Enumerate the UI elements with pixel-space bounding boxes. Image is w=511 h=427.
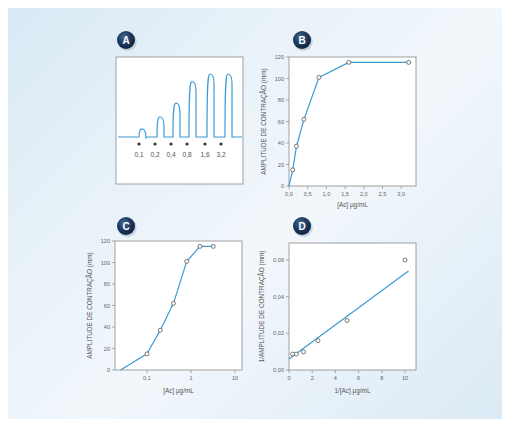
- x-tick-label: 0,1: [143, 375, 151, 381]
- y-tick-label: 0: [107, 367, 110, 373]
- y-axis-label: 1/AMPLITUDE DE CONTRAÇÃO (mm): [257, 251, 266, 363]
- y-axis-label: AMPLITUDE DE CONTRAÇÃO (mm): [85, 252, 94, 359]
- dose-label: 1,6: [200, 151, 209, 158]
- x-tick-label: 10: [402, 375, 408, 381]
- badge-b: B: [293, 31, 313, 51]
- dose-label: 0,4: [166, 151, 175, 158]
- data-point: [158, 328, 162, 332]
- x-axis-label: [Ac] µg/mL: [163, 387, 194, 395]
- y-tick-label: 120: [275, 54, 284, 60]
- badge-d: D: [293, 217, 313, 237]
- x-axis-label: [Ac] µg/mL: [337, 201, 368, 209]
- x-tick-label: 1,5: [341, 191, 349, 197]
- y-tick-label: 80: [104, 281, 110, 287]
- data-point: [145, 352, 149, 356]
- badge-a: A: [117, 31, 137, 51]
- x-tick-label: 0: [287, 375, 290, 381]
- dose-label: 0,8: [182, 151, 191, 158]
- plot-frame: [289, 243, 416, 370]
- y-tick-label: 0: [281, 183, 284, 189]
- x-tick-label: 0,5: [304, 191, 312, 197]
- data-point: [347, 60, 351, 64]
- badge-letter: B: [298, 35, 305, 46]
- data-point: [211, 244, 215, 248]
- dose-marker-dot: [169, 142, 172, 145]
- badge-c: C: [117, 217, 137, 237]
- y-tick-label: 0,06: [273, 257, 284, 263]
- y-tick-label: 0,00: [273, 367, 284, 373]
- data-point: [302, 117, 306, 121]
- y-tick-label: 100: [275, 76, 284, 82]
- data-point: [294, 352, 298, 356]
- data-point: [345, 319, 349, 323]
- x-tick-label: 1: [189, 375, 192, 381]
- data-point: [185, 259, 189, 263]
- x-tick-label: 2: [311, 375, 314, 381]
- y-tick-label: 20: [104, 346, 110, 352]
- badge-letter: D: [298, 221, 305, 232]
- x-tick-label: 8: [380, 375, 383, 381]
- data-point: [302, 350, 306, 354]
- x-tick-label: 3,0: [397, 191, 405, 197]
- data-point: [317, 75, 321, 79]
- dose-marker-dot: [153, 142, 156, 145]
- x-tick-label: 2,5: [379, 191, 387, 197]
- data-point: [198, 244, 202, 248]
- panel-c-chart: 0204060801001200,1110AMPLITUDE DE CONTRA…: [85, 238, 242, 395]
- x-tick-label: 2,0: [360, 191, 368, 197]
- y-tick-label: 20: [278, 162, 284, 168]
- data-point: [294, 144, 298, 148]
- dose-marker-dot: [203, 142, 206, 145]
- dose-marker-dot: [219, 142, 222, 145]
- x-tick-label: 1,0: [323, 191, 331, 197]
- dose-label: 0,2: [150, 151, 159, 158]
- y-tick-label: 120: [101, 238, 110, 244]
- x-tick-label: 0,0: [285, 191, 293, 197]
- data-point: [407, 60, 411, 64]
- data-point: [316, 339, 320, 343]
- x-tick-label: 6: [357, 375, 360, 381]
- dose-marker-dot: [137, 142, 140, 145]
- dose-label: 3,2: [216, 151, 225, 158]
- y-axis-label: AMPLITUDE DE CONTRAÇÃO (mm): [259, 68, 268, 175]
- panel-b-chart: 0204060801001200,00,51,01,52,02,53,0AMPL…: [259, 54, 416, 209]
- x-tick-label: 4: [334, 375, 337, 381]
- y-tick-label: 40: [278, 140, 284, 146]
- y-tick-label: 100: [101, 260, 110, 266]
- badge-letter: A: [122, 35, 129, 46]
- data-point: [291, 168, 295, 172]
- y-tick-label: 40: [104, 324, 110, 330]
- y-tick-label: 80: [278, 97, 284, 103]
- panel-d-chart: 0,000,020,040,0602468101/AMPLITUDE DE CO…: [257, 243, 416, 395]
- x-axis-label: 1/[Ac] µg/mL: [334, 387, 370, 395]
- y-tick-label: 60: [104, 303, 110, 309]
- panel-a-trace: 0,10,20,40,81,63,2: [116, 57, 243, 184]
- x-tick-label: 10: [232, 375, 238, 381]
- data-point: [403, 258, 407, 262]
- y-tick-label: 0,02: [273, 330, 284, 336]
- plot-frame: [289, 57, 416, 186]
- data-point: [171, 301, 175, 305]
- y-tick-label: 60: [278, 119, 284, 125]
- figure: A0,10,20,40,81,63,2B0204060801001200,00,…: [0, 0, 511, 427]
- y-tick-label: 0,04: [273, 294, 284, 300]
- badge-letter: C: [122, 221, 129, 232]
- plot-frame: [115, 241, 242, 370]
- dose-label: 0,1: [134, 151, 143, 158]
- dose-marker-dot: [185, 142, 188, 145]
